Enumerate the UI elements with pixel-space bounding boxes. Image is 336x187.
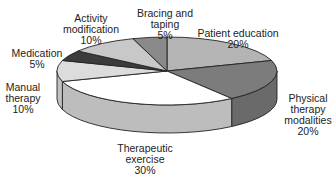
slice-label: Bracing andtaping5% [137, 8, 193, 41]
slice-label-line: 30% [117, 165, 172, 176]
slice-label-line: 20% [284, 126, 331, 137]
slice-label: Therapeuticexercise30% [117, 143, 172, 176]
slice-label: Manualtherapy10% [5, 82, 40, 115]
slice-label: Activitymodification10% [63, 13, 119, 46]
slice-label-line: 10% [63, 35, 119, 46]
slice-label-line: 5% [137, 30, 193, 41]
slice-label-line: 5% [12, 59, 63, 70]
slice-label-line: 10% [5, 104, 40, 115]
slice-label-line: 20% [197, 39, 278, 50]
slice-label: Physicaltherapymodalities20% [284, 93, 331, 137]
slice-label: Patient education20% [197, 28, 278, 50]
slice-label: Medication5% [12, 48, 63, 70]
